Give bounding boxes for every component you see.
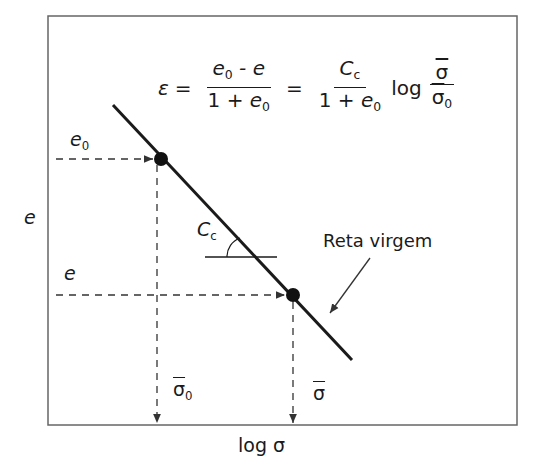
compression-formula: ε = e0 - e 1 + e0 = Cc 1 + e0 log σ σ0	[158, 56, 462, 120]
formula-frac-cc: Cc 1 + e0	[313, 56, 387, 120]
formula-frac-stress: σ σ0	[426, 60, 459, 116]
formula-equals-2: =	[286, 76, 303, 100]
formula-equals-1: =	[175, 76, 192, 100]
label-e: e	[64, 262, 76, 284]
slope-angle-arc	[227, 238, 240, 257]
point-e0-sigma0	[154, 152, 168, 166]
x-axis-label: log σ	[238, 434, 285, 456]
label-sigma: σ	[313, 382, 325, 404]
formula-epsilon: ε	[158, 76, 169, 100]
point-e-sigma	[286, 288, 300, 302]
y-axis-label: e	[24, 206, 36, 228]
reta-virgem-arrow	[330, 258, 370, 313]
formula-frac-void-ratio: e0 - e 1 + e0	[202, 56, 276, 120]
label-sigma0: σ0	[173, 378, 193, 403]
label-cc: Cc	[197, 218, 217, 243]
label-e0: e0	[70, 128, 89, 153]
label-reta-virgem: Reta virgem	[323, 230, 432, 251]
formula-log: log	[391, 76, 422, 100]
virgin-compression-line	[113, 105, 352, 360]
